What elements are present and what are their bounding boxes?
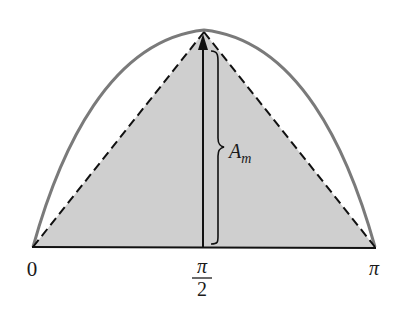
tick-label-zero: 0 xyxy=(27,257,38,281)
tick-label-pi-over-2-denominator: 2 xyxy=(197,278,207,300)
tick-label-pi: π xyxy=(369,257,380,279)
tick-label-pi-over-2-numerator: π xyxy=(197,255,208,277)
sine-triangle-diagram: Am 0 π 2 π xyxy=(0,0,407,325)
amplitude-subscript: m xyxy=(241,151,251,166)
